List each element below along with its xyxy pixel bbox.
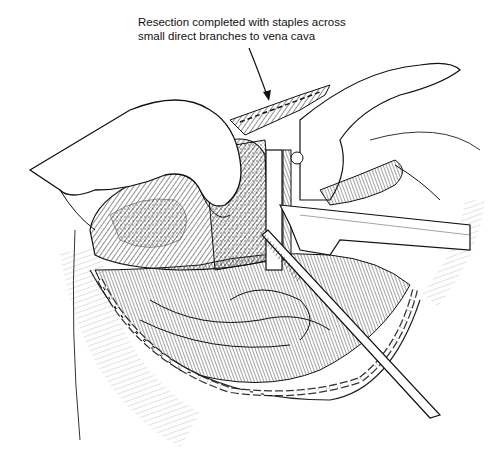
surgical-illustration <box>0 0 499 468</box>
surgical-clamp <box>266 150 470 270</box>
annotation-arrow <box>249 48 271 101</box>
assistant-right-hand <box>300 63 460 205</box>
